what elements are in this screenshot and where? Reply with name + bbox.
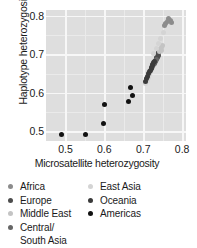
legend: AfricaEuropeMiddle EastCentral/ South As… [0,180,194,242]
data-point [126,99,131,104]
gridline-horizontal [46,131,186,133]
gridline-horizontal [46,54,186,56]
data-point [102,102,107,107]
x-axis-tick-labels: 0.50.60.70.8 [0,143,194,157]
data-point [148,68,153,73]
data-point [143,79,148,84]
gridline-horizontal-minor [46,35,186,36]
data-point [59,132,64,137]
gridline-vertical [182,10,184,141]
gridline-horizontal [46,16,186,18]
data-point [161,30,166,35]
legend-label: Americas [100,207,141,221]
data-point [162,23,167,28]
data-point [128,85,133,90]
x-axis-label: Microsatellite heterozygosity [0,157,194,169]
data-point [169,20,174,25]
gridline-vertical-minor [85,10,86,141]
legend-label: Europe [20,194,52,208]
legend-column-right: East AsiaOceaniaAmericas [88,180,188,221]
legend-column-left: AfricaEuropeMiddle EastCentral/ South As… [8,180,98,248]
legend-item[interactable]: Oceania [88,194,188,208]
x-tick-label: 0.7 [128,143,158,155]
gridline-horizontal-minor [46,74,186,75]
legend-marker-icon [88,198,93,203]
legend-marker-icon [8,225,13,230]
y-tick-label: 0.7 [18,49,44,59]
legend-item[interactable]: Africa [8,180,98,194]
gridline-horizontal [46,93,186,95]
legend-label: East Asia [100,180,141,194]
legend-marker-icon [8,184,13,189]
data-point [83,132,88,137]
legend-item[interactable]: East Asia [88,180,188,194]
y-tick-label: 0.5 [18,126,44,136]
y-tick-label: 0.6 [18,88,44,98]
legend-item[interactable]: Europe [8,194,98,208]
legend-marker-icon [8,211,13,216]
y-tick-label: 0.8 [18,11,44,21]
plot-panel [46,10,186,141]
gridline-vertical [65,10,67,141]
data-point [154,46,159,51]
x-tick-label: 0.5 [50,143,80,155]
data-point [159,48,164,53]
x-tick-label: 0.8 [167,143,197,155]
x-tick-label: 0.6 [89,143,119,155]
data-point [130,93,135,98]
gridline-horizontal-minor [46,112,186,113]
legend-marker-icon [8,198,13,203]
data-point [160,43,165,48]
legend-item[interactable]: Middle East [8,207,98,221]
legend-label: Africa [20,180,45,194]
legend-marker-icon [88,211,93,216]
legend-item[interactable]: Central/ South Asia [8,221,98,248]
legend-item[interactable]: Americas [88,207,188,221]
gridline-vertical-minor [124,10,125,141]
legend-label: Middle East [20,207,71,221]
legend-label: Central/ South Asia [20,221,67,248]
legend-label: Oceania [100,194,137,208]
legend-marker-icon [88,184,93,189]
